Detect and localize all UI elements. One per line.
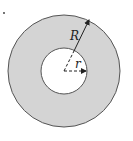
stray-dot: [3, 12, 5, 14]
outer-radius-label: R: [69, 29, 79, 43]
annulus-diagram: R r: [0, 0, 133, 141]
